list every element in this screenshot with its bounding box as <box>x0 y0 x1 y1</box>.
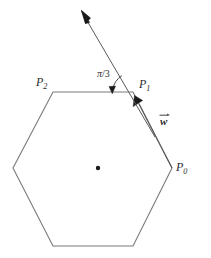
vector-w-glyph-wrap: w <box>160 116 167 127</box>
vertex-label-p0-subscript: 0 <box>183 167 187 176</box>
vertex-label-p0: P0 <box>176 161 187 177</box>
geometry-figure: P2 P1 P0 π/3 w <box>0 0 211 258</box>
vector-w-letter: w <box>160 115 167 127</box>
vertex-label-p2: P2 <box>36 76 47 92</box>
vector-w-label: w <box>160 116 167 127</box>
vector-w-arrow <box>133 96 172 169</box>
hexagon-outline <box>13 92 172 246</box>
extended-ray <box>82 11 156 138</box>
hexagon-center-dot <box>96 166 100 170</box>
vertex-label-p1: P1 <box>139 78 150 94</box>
vertex-label-p1-subscript: 1 <box>146 84 150 93</box>
angle-arc-pi-over-3 <box>109 76 122 94</box>
angle-label-pi-over-3: π/3 <box>97 69 110 79</box>
vertex-label-p2-subscript: 2 <box>43 82 47 91</box>
figure-canvas <box>0 0 211 258</box>
angle-label-text: /3 <box>102 68 110 79</box>
